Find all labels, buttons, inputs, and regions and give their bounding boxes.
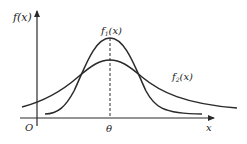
y-axis-label: f(x) (12, 11, 32, 24)
curve-f2-label: f2(x) (171, 71, 193, 83)
mean-theta-label: θ (106, 123, 112, 134)
curve-f1-label: f1(x) (100, 25, 122, 37)
curve-f2 (22, 60, 237, 108)
normal-curves-diagram: f(x) f1(x) f2(x) O θ x (0, 0, 247, 144)
origin-label: O (25, 122, 33, 133)
x-axis-label: x (206, 122, 212, 133)
